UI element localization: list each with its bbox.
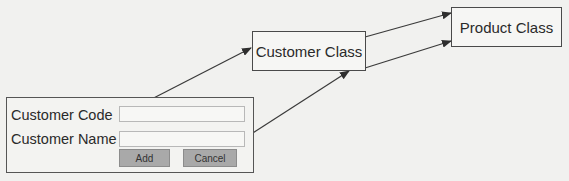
edge-customer-to-product-2 [365,41,451,68]
customer-name-label: Customer Name [11,131,117,147]
cancel-button[interactable]: Cancel [183,149,237,167]
product-class-node: Product Class [451,7,562,47]
edge-name-to-customer [245,71,349,138]
edge-customer-to-product-1 [365,13,451,37]
customer-class-label: Customer Class [256,43,363,60]
customer-code-input[interactable] [119,106,245,122]
customer-form: Customer Code Customer Name Add Cancel [6,97,254,173]
customer-class-node: Customer Class [252,31,366,71]
customer-name-input[interactable] [119,131,245,147]
add-button[interactable]: Add [119,149,170,167]
customer-code-label: Customer Code [11,107,113,123]
product-class-label: Product Class [460,19,553,36]
edge-code-to-customer [142,48,251,104]
